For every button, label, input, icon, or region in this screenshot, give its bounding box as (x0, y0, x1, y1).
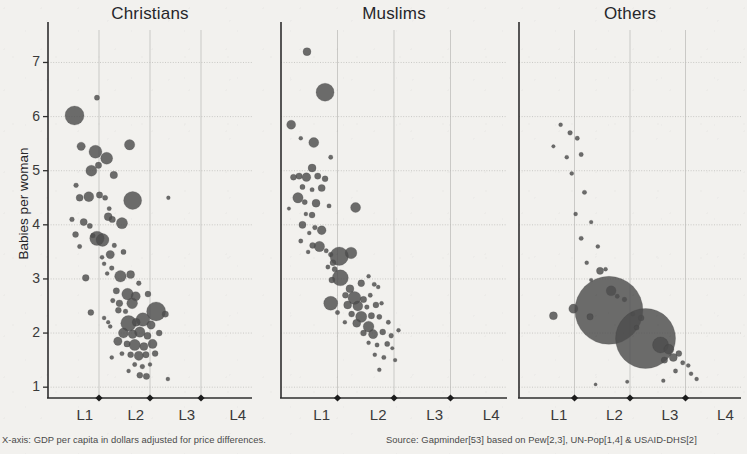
data-point-bubble (82, 274, 89, 281)
data-point-bubble (106, 250, 114, 258)
data-point-bubble (324, 249, 328, 253)
data-point-bubble (87, 223, 92, 228)
x-tick-label-l3: L3 (422, 406, 448, 423)
data-point-bubble (127, 298, 138, 309)
data-point-bubble (634, 325, 639, 330)
y-tick-label-2: 2 (22, 325, 40, 339)
data-point-bubble (162, 311, 168, 317)
data-point-bubble (582, 190, 586, 194)
data-point-bubble (335, 310, 339, 314)
x-tick-label-l4: L4 (478, 406, 504, 423)
data-point-bubble (579, 152, 583, 156)
chart-figure: ChristiansL1L2L3L4MuslimsL1L2L3L4OthersL… (0, 0, 747, 454)
data-point-bubble (386, 320, 390, 324)
data-point-bubble (664, 344, 674, 354)
panel-muslims (280, 22, 507, 402)
data-point-bubble (137, 372, 143, 378)
data-point-bubble (673, 369, 677, 373)
data-point-bubble (385, 341, 390, 346)
data-point-bubble (133, 362, 137, 366)
data-point-bubble (353, 319, 361, 327)
data-point-bubble (148, 339, 157, 348)
panel-title-christians: Christians (48, 4, 252, 24)
x-tick-label-l1: L1 (309, 406, 335, 423)
data-point-bubble (327, 204, 331, 208)
x-tick-label-l4: L4 (712, 406, 738, 423)
data-point-bubble (376, 285, 380, 289)
data-point-bubble (377, 314, 382, 319)
panel-title-others: Others (519, 4, 741, 24)
data-point-bubble (101, 152, 113, 164)
panel-others (518, 22, 741, 402)
data-point-bubble (302, 173, 311, 182)
data-point-bubble (77, 142, 85, 150)
data-point-bubble (65, 106, 84, 125)
x-tick-diamond (447, 394, 454, 401)
data-point-bubble (308, 164, 316, 172)
x-tick-label-l2: L2 (123, 406, 149, 423)
data-point-bubble (317, 226, 326, 235)
data-point-bubble (367, 341, 371, 345)
data-point-bubble (102, 262, 106, 266)
data-point-bubble (368, 313, 374, 319)
data-point-bubble (107, 206, 111, 210)
data-point-bubble (364, 305, 369, 310)
x-tick-diamond (571, 394, 578, 401)
data-point-bubble (344, 301, 352, 309)
data-point-bubble (114, 337, 122, 345)
y-tick-label-6: 6 (22, 109, 40, 123)
data-point-bubble (343, 320, 347, 324)
data-point-bubble (585, 261, 589, 265)
data-point-bubble (110, 171, 118, 179)
data-point-bubble (579, 236, 583, 240)
data-point-bubble (113, 288, 119, 294)
data-point-bubble (382, 355, 386, 359)
data-point-bubble (140, 364, 145, 369)
data-point-bubble (105, 272, 109, 276)
data-point-bubble (324, 296, 338, 310)
data-point-bubble (290, 174, 296, 180)
x-tick-label-l1: L1 (72, 406, 98, 423)
data-point-bubble (86, 165, 97, 176)
data-point-bubble (625, 380, 629, 384)
x-tick-diamond (95, 394, 102, 401)
y-tick-label-7: 7 (22, 54, 40, 68)
data-point-bubble (367, 274, 371, 278)
data-point-bubble (116, 218, 127, 229)
data-point-bubble (312, 199, 320, 207)
data-point-bubble (124, 191, 142, 209)
data-point-bubble (330, 260, 336, 266)
data-point-bubble (360, 330, 366, 336)
data-point-bubble (373, 302, 379, 308)
footnote-source: Source: Gapminder[53] based on Pew[2,3],… (386, 434, 697, 445)
data-point-bubble (100, 255, 104, 259)
data-point-bubble (309, 212, 315, 218)
data-point-bubble (389, 333, 394, 338)
data-point-bubble (299, 136, 303, 140)
data-point-bubble (143, 373, 149, 379)
data-point-bubble (134, 351, 143, 360)
data-point-bubble (106, 320, 110, 324)
data-point-bubble (349, 311, 355, 317)
data-point-bubble (329, 155, 333, 159)
data-point-bubble (127, 271, 135, 279)
y-axis-title: Babies per woman (16, 129, 31, 279)
panel-title-muslims: Muslims (281, 4, 507, 24)
data-point-bubble (152, 351, 158, 357)
x-tick-diamond (197, 394, 204, 401)
data-point-bubble (574, 212, 578, 216)
data-point-bubble (89, 145, 102, 158)
x-tick-label-l3: L3 (657, 406, 683, 423)
data-point-bubble (316, 83, 334, 101)
data-point-bubble (559, 123, 563, 127)
data-point-bubble (109, 266, 114, 271)
data-point-bubble (108, 325, 112, 329)
data-point-bubble (342, 292, 348, 298)
x-tick-label-l3: L3 (174, 406, 200, 423)
data-point-bubble (115, 307, 121, 313)
data-point-bubble (115, 270, 127, 282)
data-point-bubble (695, 377, 699, 381)
data-point-bubble (393, 358, 397, 362)
x-tick-label-l2: L2 (601, 406, 627, 423)
data-point-bubble (568, 130, 573, 135)
